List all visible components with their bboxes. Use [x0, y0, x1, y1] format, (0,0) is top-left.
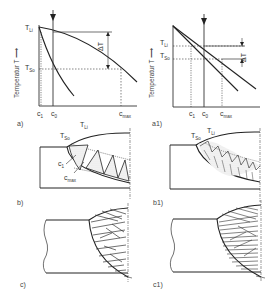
cmax-label: cmax: [64, 174, 77, 183]
t-li-label: TLi: [207, 127, 215, 136]
phase-diagram-a: ΔT TLi TSo Temperatur T ⟶ c1 c0 cmax a): [13, 10, 137, 128]
weld-pool-b: TSo TLi c1 cmax b): [17, 121, 130, 207]
t-so-label: TSo: [60, 132, 70, 141]
t-so-label: TSo: [191, 132, 201, 141]
delta-t-label: ΔT: [240, 52, 247, 62]
weld-grain-structure-c: c): [20, 203, 132, 289]
weld-pool-b1: TSo TLi b1): [153, 127, 260, 207]
panel-label-a: a): [17, 120, 23, 128]
panel-label-b1: b1): [153, 199, 163, 207]
panel-label-c: c): [20, 281, 26, 289]
phase-diagram-a1: ΔT TLi TSo Temperatur T ⟶ c1 c0 cmax a1): [148, 14, 260, 128]
y-axis-label: Temperatur T ⟶: [13, 48, 21, 98]
panel-label-c1: c1): [153, 281, 163, 289]
panel-label-b: b): [17, 199, 23, 207]
x-tick-cmax: cmax: [220, 110, 233, 119]
t-so-label: TSo: [25, 64, 35, 73]
weld-solidification-figure: ΔT TLi TSo Temperatur T ⟶ c1 c0 cmax a) …: [0, 0, 273, 304]
delta-t-label: ΔT: [97, 41, 104, 51]
c1-label: c1: [58, 160, 65, 169]
t-li-label: TLi: [80, 121, 88, 130]
t-li-label: TLi: [160, 39, 168, 48]
panel-label-a1: a1): [152, 120, 162, 128]
x-tick-cmax: cmax: [119, 110, 132, 119]
x-tick-c0: c0: [202, 110, 209, 119]
weld-grain-structure-c1: c1): [153, 200, 265, 289]
t-so-label: TSo: [160, 52, 170, 61]
x-tick-c0: c0: [51, 110, 58, 119]
x-tick-c1: c1: [189, 110, 196, 119]
y-axis-label: Temperatur T ⟶: [148, 48, 156, 98]
t-li-label: TLi: [25, 24, 33, 33]
x-tick-c1: c1: [37, 110, 44, 119]
